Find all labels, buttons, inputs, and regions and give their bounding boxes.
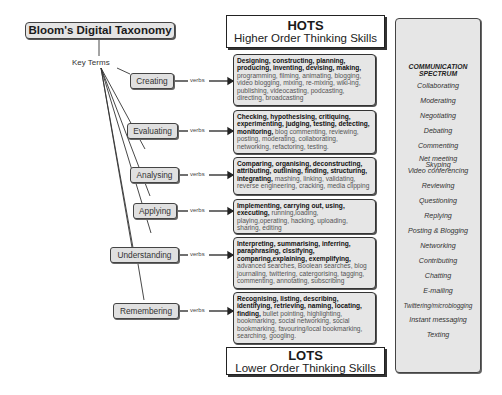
comm-title-line2: SPECTRUM [396,70,480,77]
traditional-verbs: Interpreting, summarising, inferring, pa… [237,240,351,262]
comm-title-line1: COMMUNICATION [396,63,480,70]
diagram-title: Bloom's Digital Taxonomy [25,22,175,39]
level-evaluating: Evaluating [127,123,178,139]
hots-header: HOTS Higher Order Thinking Skills [226,15,385,48]
level-understanding: Understanding [110,247,179,263]
verbs-label: verbs [190,307,205,313]
level-applying: Applying [133,203,177,219]
hots-abbr: HOTS [227,19,384,32]
comm-item: Collaborating [396,82,480,90]
comm-item: Negotiating [396,112,480,120]
comm-item: Video conferencing [396,168,480,175]
comm-item: Commenting [396,142,480,150]
verb-box-analysing: Comparing, organising, deconstructing, a… [233,157,376,195]
communication-spectrum-panel: COMMUNICATION SPECTRUM Collaborating Mod… [395,18,481,373]
level-analysing: Analysing [130,167,179,183]
comm-item: Moderating [396,97,480,105]
comm-item: Debating [396,127,480,135]
verbs-label: verbs [190,171,205,177]
comm-item: Contributing [396,257,480,265]
comm-item: Questioning [396,197,480,205]
lots-footer: LOTS Lower Order Thinking Skills [226,347,385,375]
verb-box-understanding: Interpreting, summarising, inferring, pa… [233,237,376,289]
comm-item: Reviewing [396,182,480,190]
verb-box-evaluating: Checking, hypothesising, critiquing, exp… [233,110,376,154]
comm-item: Networking [396,242,480,250]
digital-verbs: programming, filming, animating, bloggin… [237,72,361,101]
verb-box-remembering: Recognising, listing, describing, identi… [233,292,376,344]
verbs-label: verbs [190,127,205,133]
comm-item: Replying [396,212,480,220]
comm-item: E-mailing [396,287,480,295]
traditional-verbs: Designing, constructing, planning, produ… [237,57,361,71]
verbs-label: verbs [190,251,205,257]
verb-box-creating: Designing, constructing, planning, produ… [233,54,376,106]
hots-full: Higher Order Thinking Skills [227,32,384,44]
key-terms-label: Key Terms [72,58,110,67]
verb-box-applying: Implementing, carrying out, using, execu… [233,199,376,234]
comm-item: Twittering/microblogging [396,302,480,309]
comm-item: Posting & Blogging [396,227,480,235]
communication-spectrum-title: COMMUNICATION SPECTRUM [396,63,480,77]
comm-item: Instant messaging [396,316,480,324]
comm-item: Chatting [396,272,480,280]
level-remembering: Remembering [113,303,179,319]
verbs-label: verbs [190,77,205,83]
digital-verbs: advanced searches, Boolean searches, blo… [237,262,367,284]
verbs-label: verbs [190,207,205,213]
lots-abbr: LOTS [227,349,384,362]
comm-item: Texting [396,331,480,339]
level-creating: Creating [130,73,174,89]
lots-full: Lower Order Thinking Skills [227,362,384,374]
